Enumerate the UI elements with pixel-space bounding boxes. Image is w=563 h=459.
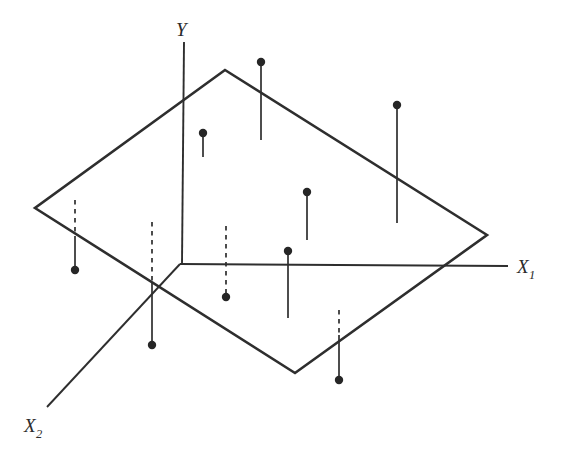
axis-labels: Y X 1 X 2 bbox=[23, 19, 535, 441]
data-point-9 bbox=[393, 101, 401, 109]
data-point-1 bbox=[71, 266, 79, 274]
coordinate-axes bbox=[47, 42, 508, 407]
axis-x1 bbox=[180, 264, 508, 266]
axis-y bbox=[182, 42, 184, 264]
data-point-2 bbox=[148, 341, 156, 349]
data-point-6 bbox=[284, 247, 292, 255]
data-point-5 bbox=[257, 58, 265, 66]
axis-label-x2: X bbox=[23, 415, 37, 436]
data-point-4 bbox=[222, 293, 230, 301]
axis-label-x2-subscript: 2 bbox=[36, 427, 42, 441]
axis-label-x1: X bbox=[516, 256, 530, 277]
axis-label-y: Y bbox=[176, 19, 189, 40]
data-point-3 bbox=[199, 129, 207, 137]
data-point-7 bbox=[303, 188, 311, 196]
residual-stems bbox=[75, 62, 397, 380]
data-point-8 bbox=[335, 376, 343, 384]
scatterplot-canvas: Y X 1 X 2 bbox=[0, 0, 563, 459]
axis-x2 bbox=[47, 264, 180, 407]
regression-plane-figure: Y X 1 X 2 bbox=[0, 0, 563, 459]
axis-label-x1-subscript: 1 bbox=[529, 268, 535, 282]
